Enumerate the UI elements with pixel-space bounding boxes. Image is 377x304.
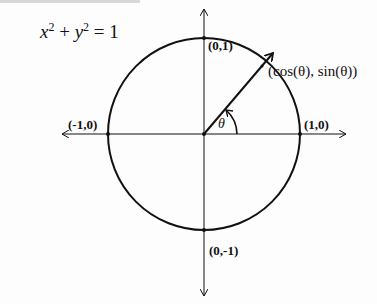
label-angle-theta: θ: [218, 116, 225, 132]
point-origin: [202, 132, 206, 136]
point-on-circle: [261, 65, 264, 68]
angle-arc: [226, 110, 237, 134]
circle-equation: x2 + y2 = 1: [40, 20, 119, 43]
label-cos-sin-point: (cos(θ), sin(θ)): [268, 63, 357, 80]
unit-circle-diagram: [0, 0, 377, 304]
label-left-point: (-1,0): [68, 117, 97, 133]
eq-plus: +: [54, 21, 74, 42]
label-top-point: (0,1): [208, 38, 233, 54]
label-right-point: (1,0): [304, 117, 329, 133]
point-right: [298, 132, 302, 136]
label-bottom-point: (0,-1): [209, 243, 238, 259]
point-left: [106, 132, 110, 136]
point-top: [202, 36, 206, 40]
eq-y: y: [75, 21, 83, 42]
point-bottom: [202, 228, 206, 232]
eq-rhs: = 1: [89, 21, 119, 42]
